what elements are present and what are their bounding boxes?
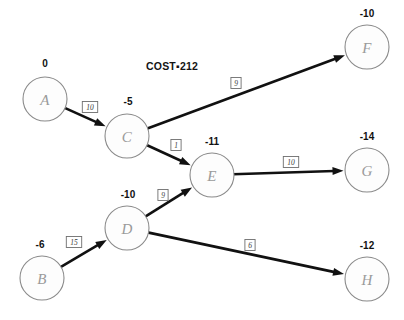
edge-arrowhead: [333, 55, 345, 63]
edge-cost-text: 9: [234, 79, 238, 88]
node-value: -12: [360, 240, 375, 251]
edge-arrowhead: [179, 157, 191, 165]
node-value: -14: [360, 131, 375, 142]
node-h[interactable]: H-12: [345, 240, 389, 301]
edge-shaft: [60, 245, 98, 268]
node-label: F: [361, 40, 372, 56]
edge-cost-text: 10: [287, 158, 295, 167]
edge-cost-text: 9: [161, 191, 165, 200]
edge-cost-label-a-c: 10: [82, 102, 97, 113]
edge-arrowhead: [332, 268, 344, 276]
edge-arrowhead: [181, 187, 192, 196]
node-value: -11: [205, 136, 219, 147]
node-b[interactable]: B-6: [20, 239, 64, 300]
edge-cost-label-c-e: 1: [171, 140, 181, 151]
node-label: A: [39, 92, 50, 108]
edge-cost-text: 10: [86, 103, 94, 112]
edge-cost-text: 15: [70, 238, 78, 247]
node-value: -10: [360, 8, 375, 19]
node-label: D: [120, 221, 132, 237]
node-g[interactable]: G-14: [345, 131, 389, 192]
node-label: H: [360, 272, 373, 288]
node-value: -5: [124, 96, 133, 107]
edge-cost-label-d-h: 6: [245, 240, 255, 251]
edge-cost-text: 1: [174, 141, 178, 150]
node-d[interactable]: D-10: [105, 189, 149, 250]
node-value: -6: [36, 239, 45, 250]
edge-arrowhead: [332, 167, 343, 175]
node-label: B: [37, 271, 46, 287]
edge-c-e: [146, 145, 191, 165]
edge-cost-text: 6: [248, 241, 252, 250]
edge-e-g: [233, 167, 344, 175]
node-a[interactable]: A0: [23, 58, 67, 121]
node-label: E: [206, 168, 216, 184]
cost-annotation: COST▪212: [146, 60, 198, 72]
node-e[interactable]: E-11: [190, 136, 234, 197]
edge-cost-label-e-g: 10: [283, 157, 298, 168]
node-value: -10: [121, 189, 136, 200]
edge-shaft: [233, 171, 334, 174]
node-value: 0: [42, 58, 48, 69]
edge-arrowhead: [95, 240, 107, 249]
network-diagram-canvas: 1091109156A0B-6C-5D-10E-11F-10G-14H-12 C…: [0, 0, 404, 320]
node-f[interactable]: F-10: [345, 8, 389, 69]
node-label: G: [361, 163, 372, 179]
edge-d-h: [148, 232, 344, 275]
graph-svg: 1091109156A0B-6C-5D-10E-11F-10G-14H-12: [0, 0, 404, 320]
edge-cost-label-c-f: 9: [231, 78, 241, 89]
edge-cost-label-b-d: 15: [66, 237, 81, 248]
edge-arrowhead: [94, 118, 106, 126]
node-c[interactable]: C-5: [105, 96, 149, 158]
node-label: C: [122, 129, 133, 145]
edge-shaft: [148, 232, 335, 272]
edge-cost-label-d-e: 9: [158, 190, 168, 201]
